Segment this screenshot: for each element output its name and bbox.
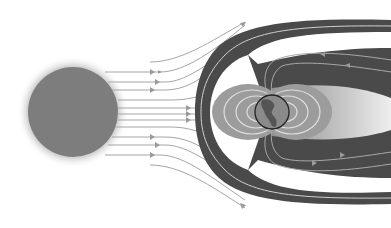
sun-disc [28,67,118,157]
sun [17,56,129,168]
magnetosphere-diagram [0,0,391,228]
earth [255,95,289,129]
